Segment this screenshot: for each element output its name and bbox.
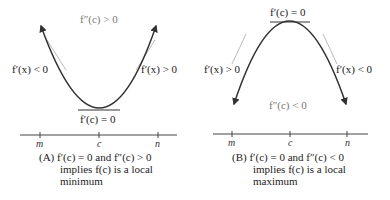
panel-a-concavity-label: f″(c) > 0 (80, 13, 118, 26)
panel-b-right-slope-label: f′(x) < 0 (336, 63, 373, 76)
panel-a-left-slope-label: f′(x) < 0 (12, 63, 49, 76)
panel-a-left-tangent (47, 40, 66, 70)
panel-a-tick-label-c: c (97, 138, 102, 149)
panel-b-caption-line1: f′(c) = 0 and f″(c) < 0 (249, 151, 344, 163)
panel-b-caption-line3: maximum (232, 175, 346, 187)
panel-b-caption-prefix: (B) (232, 151, 247, 163)
panel-b-left-tangent (232, 34, 246, 64)
panel-a-critical-label: f′(c) = 0 (80, 113, 116, 126)
panel-a-local-minimum: f″(c) > 0 f′(x) < 0 f′(x) > 0 f′(c) = 0 … (12, 13, 178, 149)
panel-b-critical-label: f′(c) = 0 (270, 6, 306, 19)
panel-a-right-slope-label: f′(x) > 0 (141, 63, 178, 76)
panel-b-caption: (B) f′(c) = 0 and f″(c) < 0 implies f(c)… (232, 151, 346, 187)
panel-a-caption-line3: minimum (39, 175, 153, 187)
panel-b-local-maximum: f′(c) = 0 f′(x) > 0 f′(x) < 0 f″(c) < 0 … (204, 6, 373, 148)
panel-a-caption: (A) f′(c) = 0 and f″(c) > 0 implies f(c)… (39, 151, 153, 187)
panel-a-tick-label-m: m (36, 138, 43, 149)
panel-b-concavity-label: f″(c) < 0 (269, 99, 307, 112)
panel-b-tick-label-n: n (345, 137, 350, 148)
panel-b-right-tangent (323, 34, 337, 64)
panel-a-caption-line1: f′(c) = 0 and f″(c) > 0 (57, 151, 152, 163)
panel-a-tick-label-n: n (155, 138, 160, 149)
panel-b-left-slope-label: f′(x) > 0 (204, 63, 241, 76)
panel-b-parabola-curve (234, 21, 346, 104)
panel-a-caption-line2: implies f(c) is a local (39, 163, 153, 175)
panel-b-tick-label-c: c (288, 137, 293, 148)
panel-b-tick-label-m: m (228, 137, 235, 148)
panel-a-parabola-curve (41, 26, 156, 108)
panel-b-caption-line2: implies f(c) is a local (232, 163, 346, 175)
panel-a-caption-prefix: (A) (39, 151, 54, 163)
